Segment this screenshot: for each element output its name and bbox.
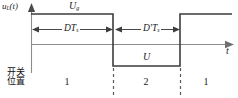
on-time-subscript: s (76, 27, 78, 33)
high-level-subscript: g (76, 4, 79, 11)
switch-state-3: 1 (199, 76, 213, 87)
on-time-label: DTs (62, 24, 80, 34)
on-time-left-arrow-icon (32, 27, 39, 33)
x-axis-label: t (226, 46, 229, 56)
high-level-label: Ug (69, 1, 79, 11)
off-time-subscript: s (157, 27, 159, 33)
low-level-label: U (143, 52, 150, 62)
switch-position-caption-line2: 位置 (3, 77, 29, 86)
y-axis-label-argument: (t) (10, 1, 19, 11)
switch-state-1: 1 (60, 76, 74, 87)
off-time-right-arrow-icon (173, 27, 180, 33)
waveform-figure: uL(t) Ug U DTs D'Ts t 开关 位置 1 2 1 (0, 0, 238, 98)
y-axis-label: uL(t) (2, 2, 18, 12)
off-time-label: D'Ts (141, 24, 161, 34)
switch-state-2: 2 (139, 76, 153, 87)
time-axis (31, 41, 234, 48)
off-time-left-arrow-icon (115, 27, 122, 33)
on-time-right-arrow-icon (106, 27, 113, 33)
voltage-axis-arrow-icon (28, 3, 35, 12)
on-time-symbol: DT (64, 23, 76, 33)
switch-position-caption: 开关 位置 (3, 68, 29, 87)
inductor-voltage-waveform (31, 14, 232, 66)
off-time-symbol: D'T (143, 23, 157, 33)
